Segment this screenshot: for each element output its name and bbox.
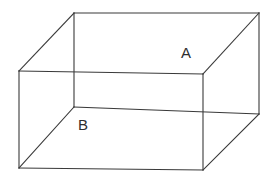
- prism-edges: [19, 13, 259, 170]
- edge-top-right-diagonal: [203, 13, 259, 74]
- prism-drawing: A B: [0, 0, 270, 183]
- prism-labels: A B: [78, 44, 191, 133]
- edge-top-front: [19, 71, 203, 74]
- vertex-label-b: B: [78, 116, 88, 133]
- edge-top-left-diagonal: [19, 13, 74, 71]
- prism-figure: A B: [0, 0, 270, 183]
- edge-mid-horizontal: [74, 107, 259, 114]
- vertex-label-a: A: [181, 44, 191, 61]
- edge-bottom-front: [19, 168, 203, 170]
- edge-bottom-left-diagonal: [19, 107, 74, 168]
- edge-bottom-right-diagonal: [203, 114, 259, 170]
